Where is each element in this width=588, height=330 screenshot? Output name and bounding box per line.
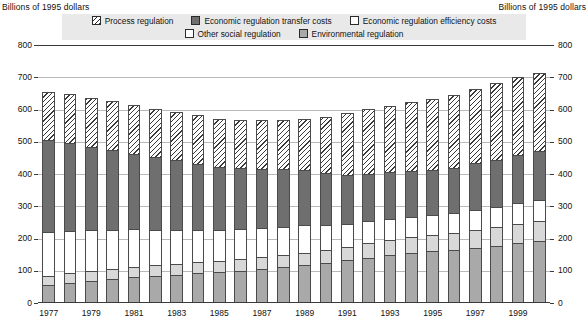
bar-1979[interactable]	[85, 98, 97, 303]
bar-segment-efficiency-1986	[234, 229, 246, 259]
legend-row-2: Other social regulationEnvironmental reg…	[62, 27, 526, 40]
legend-label-efficiency: Economic regulation efficiency costs	[363, 16, 497, 26]
bar-series-container	[38, 45, 550, 303]
y-tick-label-r-700: 700	[558, 72, 572, 82]
bar-segment-environmental-1997	[469, 248, 481, 303]
bar-segment-environmental-1989	[298, 265, 310, 303]
bar-segment-transfer-1998	[490, 160, 502, 207]
bar-1995[interactable]	[426, 99, 438, 303]
legend-label-environmental: Environmental regulation	[312, 29, 404, 39]
y-tick-mark-r-100	[550, 271, 554, 272]
y-tick-mark-r-300	[550, 206, 554, 207]
y-tick-mark-l-0	[34, 303, 38, 304]
bar-segment-othersocial-1989	[298, 253, 310, 265]
bar-segment-efficiency-1978	[64, 231, 76, 273]
bar-segment-process-1991	[341, 113, 353, 174]
bar-segment-transfer-1995	[426, 170, 438, 216]
y-tick-mark-r-600	[550, 110, 554, 111]
bar-segment-environmental-2000	[533, 241, 545, 303]
bar-1992[interactable]	[362, 109, 374, 303]
bar-segment-efficiency-1995	[426, 215, 438, 234]
bar-1994[interactable]	[405, 102, 417, 303]
y-tick-label-r-600: 600	[558, 104, 572, 114]
legend-swatch-environmental-icon	[299, 29, 308, 38]
bar-1987[interactable]	[256, 120, 268, 303]
bar-segment-efficiency-1987	[256, 228, 268, 257]
bar-1983[interactable]	[170, 112, 182, 303]
bar-segment-environmental-1987	[256, 269, 268, 303]
bar-segment-process-1988	[277, 120, 289, 170]
bar-1993[interactable]	[384, 106, 396, 303]
bar-segment-process-1985	[213, 119, 225, 167]
bar-2000[interactable]	[533, 73, 545, 303]
y-tick-mark-l-300	[34, 206, 38, 207]
bar-segment-process-1986	[234, 120, 246, 168]
legend-item-othersocial[interactable]: Other social regulation	[185, 29, 281, 39]
bar-segment-transfer-1987	[256, 169, 268, 228]
bar-segment-environmental-1991	[341, 260, 353, 303]
bar-1988[interactable]	[277, 120, 289, 303]
bar-segment-efficiency-1989	[298, 225, 310, 253]
bar-1999[interactable]	[512, 77, 524, 303]
bar-1982[interactable]	[149, 109, 161, 303]
bar-segment-efficiency-1981	[128, 229, 140, 266]
y-tick-mark-r-0	[550, 303, 554, 304]
bar-1997[interactable]	[469, 89, 481, 303]
bar-segment-transfer-1988	[277, 169, 289, 226]
bar-1996[interactable]	[448, 95, 460, 303]
bar-segment-environmental-1978	[64, 283, 76, 303]
bar-segment-othersocial-1990	[320, 250, 332, 263]
legend-item-environmental[interactable]: Environmental regulation	[299, 29, 404, 39]
bar-1981[interactable]	[128, 105, 140, 303]
bar-1978[interactable]	[64, 94, 76, 303]
x-tick-label-1991: 1991	[338, 308, 357, 318]
bar-segment-environmental-1988	[277, 267, 289, 303]
y-tick-label-l-100: 100	[2, 265, 32, 275]
bar-segment-process-1979	[85, 98, 97, 147]
bar-1977[interactable]	[42, 92, 54, 303]
bar-segment-environmental-1995	[426, 251, 438, 303]
plot-area	[38, 45, 550, 303]
y-tick-mark-r-500	[550, 142, 554, 143]
y-tick-mark-l-500	[34, 142, 38, 143]
bar-1990[interactable]	[320, 117, 332, 303]
bar-segment-othersocial-1977	[42, 276, 54, 286]
x-tick-label-1993: 1993	[381, 308, 400, 318]
bar-segment-transfer-1997	[469, 163, 481, 209]
legend-swatch-othersocial-icon	[185, 29, 194, 38]
bar-segment-othersocial-1991	[341, 247, 353, 261]
bar-segment-efficiency-1982	[149, 230, 161, 265]
bar-segment-othersocial-1995	[426, 235, 438, 252]
bar-1984[interactable]	[192, 115, 204, 303]
bar-segment-process-1980	[106, 101, 118, 150]
bar-segment-othersocial-1986	[234, 259, 246, 271]
legend-swatch-process-icon	[92, 16, 101, 25]
bar-segment-environmental-1998	[490, 246, 502, 303]
legend-item-process[interactable]: Process regulation	[92, 16, 174, 26]
legend-item-efficiency[interactable]: Economic regulation efficiency costs	[350, 16, 497, 26]
y-tick-label-l-800: 800	[2, 40, 32, 50]
bar-segment-othersocial-1999	[512, 224, 524, 243]
bar-1989[interactable]	[298, 119, 310, 303]
bar-segment-efficiency-2000	[533, 200, 545, 222]
y-tick-label-r-300: 300	[558, 201, 572, 211]
bar-segment-environmental-1985	[213, 272, 225, 303]
bar-segment-environmental-1977	[42, 285, 54, 303]
bar-1980[interactable]	[106, 101, 118, 303]
bar-segment-othersocial-1988	[277, 255, 289, 267]
bar-1991[interactable]	[341, 113, 353, 303]
bar-segment-transfer-1984	[192, 164, 204, 230]
bar-segment-process-1987	[256, 120, 268, 169]
y-tick-label-r-500: 500	[558, 136, 572, 146]
bar-1986[interactable]	[234, 120, 246, 303]
bar-1998[interactable]	[490, 83, 502, 303]
legend-item-transfer[interactable]: Economic regulation transfer costs	[191, 16, 331, 26]
bar-1985[interactable]	[213, 119, 225, 303]
bar-segment-efficiency-1977	[42, 232, 54, 276]
bar-segment-efficiency-1999	[512, 203, 524, 224]
y-tick-mark-r-700	[550, 77, 554, 78]
bar-segment-process-1984	[192, 115, 204, 163]
bar-segment-environmental-1992	[362, 258, 374, 303]
bar-segment-efficiency-1980	[106, 230, 118, 269]
y-tick-label-l-400: 400	[2, 169, 32, 179]
